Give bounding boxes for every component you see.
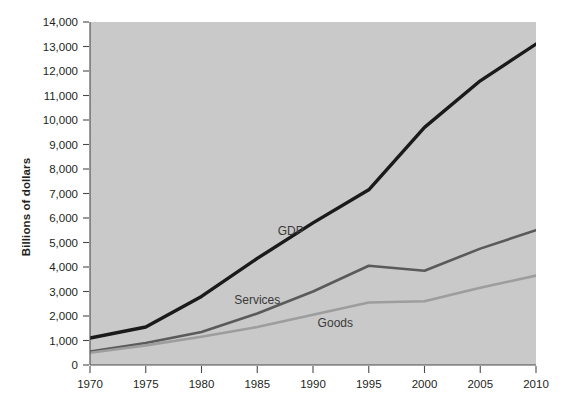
x-tick-label: 2005 (467, 378, 493, 390)
y-tick-label: 11,000 (44, 90, 78, 102)
y-tick-label: 13,000 (43, 41, 78, 53)
series-lines (90, 22, 536, 365)
x-tick-label: 1995 (356, 378, 382, 390)
y-tick-label: 8,000 (49, 163, 78, 175)
y-axis-tick-labels: 01,0002,0003,0004,0005,0006,0007,0008,00… (0, 0, 78, 414)
x-tick-label: 1975 (133, 378, 159, 390)
x-tick-label: 1990 (300, 378, 326, 390)
x-tick-label: 2010 (523, 378, 549, 390)
x-axis-tick-labels: 197019751980198519901995200020052010 (0, 378, 572, 402)
y-tick-label: 4,000 (49, 261, 78, 273)
x-tick-label: 1980 (189, 378, 215, 390)
y-tick-label: 9,000 (49, 139, 78, 151)
y-tick-label: 1,000 (49, 335, 78, 347)
y-tick-label: 3,000 (49, 286, 78, 298)
x-tick-label: 1970 (77, 378, 103, 390)
x-tick-label: 2000 (412, 378, 438, 390)
x-tick-label: 1985 (244, 378, 270, 390)
y-tick-label: 5,000 (49, 237, 78, 249)
y-tick-label: 2,000 (49, 310, 78, 322)
plot-area (90, 22, 536, 365)
y-tick-label: 0 (72, 359, 78, 371)
y-tick-label: 12,000 (43, 65, 78, 77)
y-tick-label: 7,000 (49, 188, 78, 200)
y-tick-label: 6,000 (49, 212, 78, 224)
y-tick-label: 10,000 (43, 114, 78, 126)
y-tick-label: 14,000 (43, 16, 78, 28)
line-chart: Billions of dollars 01,0002,0003,0004,00… (0, 0, 572, 414)
series-line-gdp (90, 44, 536, 338)
